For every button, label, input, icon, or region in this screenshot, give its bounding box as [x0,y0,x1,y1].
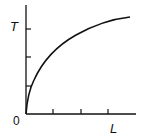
y-ticks [26,29,31,86]
x-ticks [53,109,108,114]
data-curve [26,17,130,114]
x-axis-label: L [110,121,117,136]
chart: T L 0 [0,0,155,139]
origin-label: 0 [13,114,20,128]
y-axis-label: T [10,19,19,34]
